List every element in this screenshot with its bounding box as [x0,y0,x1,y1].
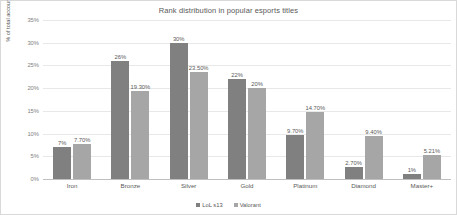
y-tick-label: 15% [27,108,39,114]
bar[interactable] [190,72,208,179]
legend-swatch-icon [196,203,200,207]
bar-column[interactable]: 7% [53,20,71,179]
bar-column[interactable]: 19.30% [131,20,149,179]
bar-group: 1%5.21%Master+ [393,20,451,179]
bar-value-label: 9.70% [287,128,303,134]
bar[interactable] [228,79,246,179]
bar-column[interactable]: 9.70% [286,20,304,179]
bar[interactable] [365,136,383,179]
bar-group: 30%23.50%Silver [160,20,218,179]
bar-group: 9.70%14.70%Platinum [276,20,334,179]
x-category-label: Diamond [334,182,392,189]
bar-column[interactable]: 22% [228,20,246,179]
bar-value-label: 23.50% [189,65,209,71]
bar-column[interactable]: 30% [170,20,188,179]
bar-value-label: 19.30% [131,84,151,90]
bar-column[interactable]: 23.50% [190,20,208,179]
bar-value-label: 5.21% [424,148,440,154]
bar-value-label: 7% [58,140,66,146]
bar-column[interactable]: 2.70% [345,20,363,179]
y-tick-label: 10% [27,131,39,137]
bar-value-label: 14.70% [305,105,325,111]
chart-title: Rank distribution in popular esports tit… [1,6,456,15]
bar-value-label: 26% [115,54,127,60]
bar-value-label: 30% [173,36,185,42]
bar-value-label: 9.40% [365,129,381,135]
y-tick-label: 0% [31,176,39,182]
y-tick-label: 25% [27,62,39,68]
bar[interactable] [131,91,149,179]
bar[interactable] [403,174,421,179]
bar[interactable] [286,135,304,179]
bar[interactable] [73,144,91,179]
bar[interactable] [306,112,324,179]
bar-chart: Rank distribution in popular esports tit… [0,0,457,215]
bar-value-label: 1% [408,167,416,173]
bar-column[interactable]: 1% [403,20,421,179]
bar-column[interactable]: 5.21% [423,20,441,179]
legend-item[interactable]: LoL s13 [196,202,222,208]
x-category-label: Silver [160,182,218,189]
bar[interactable] [111,61,129,179]
bar-value-label: 20% [251,81,263,87]
legend-label: LoL s13 [202,202,222,208]
x-axis-line: 0% [43,179,451,180]
chart-legend: LoL s13Valorant [1,202,456,208]
bar[interactable] [170,43,188,179]
bar-value-label: 2.70% [345,160,361,166]
bar-group: 7%7.70%Iron [43,20,101,179]
x-category-label: Platinum [276,182,334,189]
bar-column[interactable]: 9.40% [365,20,383,179]
bar-column[interactable]: 7.70% [73,20,91,179]
bar-value-label: 22% [231,72,243,78]
legend-label: Valorant [240,202,261,208]
y-tick-label: 20% [27,85,39,91]
plot-area: 0%5%10%15%20%25%30%35%7%7.70%Iron26%19.3… [43,20,451,179]
bar-column[interactable]: 20% [248,20,266,179]
legend-item[interactable]: Valorant [234,202,261,208]
y-tick-label: 5% [31,153,39,159]
x-category-label: Bronze [101,182,159,189]
bar-value-label: 7.70% [74,137,90,143]
y-axis-title: % of total accounts [5,0,15,63]
y-tick-label: 30% [27,40,39,46]
bar-group: 2.70%9.40%Diamond [334,20,392,179]
bar[interactable] [423,155,441,179]
bar-column[interactable]: 26% [111,20,129,179]
bar-column[interactable]: 14.70% [306,20,324,179]
x-category-label: Iron [43,182,101,189]
bar-group: 26%19.30%Bronze [101,20,159,179]
bar[interactable] [345,167,363,179]
x-category-label: Master+ [393,182,451,189]
bar[interactable] [248,88,266,179]
x-category-label: Gold [218,182,276,189]
bar[interactable] [53,147,71,179]
legend-swatch-icon [234,203,238,207]
y-tick-label: 35% [27,17,39,23]
bar-group: 22%20%Gold [218,20,276,179]
